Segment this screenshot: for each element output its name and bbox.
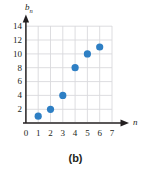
y-tick-label: 8 <box>8 64 22 73</box>
x-tick-label: 4 <box>71 129 79 138</box>
x-tick-label: 1 <box>34 129 42 138</box>
x-tick-label: 3 <box>59 129 67 138</box>
x-tick-label: 0 <box>22 129 30 138</box>
x-tick-label: 2 <box>47 129 55 138</box>
scatter-plot <box>0 0 151 172</box>
data-point <box>59 92 66 99</box>
data-point <box>72 64 79 71</box>
figure-panel: bn n 14 12 10 8 6 4 2 0 1 2 3 4 5 6 7 (b… <box>0 0 151 172</box>
y-tick-label: 10 <box>8 50 22 59</box>
data-point <box>96 43 103 50</box>
y-axis-label-subscript: n <box>30 7 33 14</box>
y-axis-label: bn <box>25 3 33 14</box>
grid-horizontal <box>26 26 112 109</box>
y-tick-label: 2 <box>8 105 22 114</box>
y-tick-label: 4 <box>8 91 22 100</box>
y-tick-label: 14 <box>8 22 22 31</box>
figure-caption: (b) <box>0 152 151 164</box>
data-point <box>35 113 42 120</box>
x-axis <box>23 120 129 127</box>
y-tick-label: 6 <box>8 77 22 86</box>
x-tick-label: 7 <box>108 129 116 138</box>
x-tick-label: 6 <box>96 129 104 138</box>
y-axis <box>23 15 29 124</box>
y-tick-label: 12 <box>8 36 22 45</box>
data-point <box>84 50 91 57</box>
data-point <box>47 106 54 113</box>
x-axis-label: n <box>133 118 138 127</box>
x-tick-label: 5 <box>83 129 91 138</box>
